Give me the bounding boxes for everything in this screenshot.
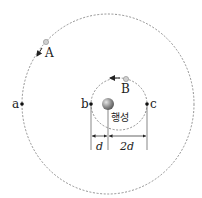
diagram-canvas: d 2d 행성 A B a b c: [0, 0, 202, 198]
point-b-label: b: [81, 97, 89, 111]
point-b-icon: [89, 102, 93, 106]
orbit-diagram: d 2d 행성 A B a b c: [0, 0, 202, 198]
satellite-a-label: A: [44, 46, 54, 60]
dimension-d-label: d: [96, 140, 103, 153]
satellite-b-icon: [123, 76, 128, 81]
point-a-label: a: [12, 97, 19, 111]
planet-label: 행성: [111, 112, 129, 123]
satellite-a-icon: [43, 39, 48, 44]
velocity-arrow-a: [37, 48, 42, 56]
point-c-icon: [145, 102, 149, 106]
satellite-b-label: B: [121, 82, 130, 96]
dimension-2d-label: 2d: [119, 140, 134, 153]
point-a-icon: [20, 102, 24, 106]
point-c-label: c: [150, 97, 157, 111]
planet-icon: [102, 98, 114, 110]
